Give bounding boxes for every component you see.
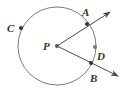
point-B: B: [89, 61, 97, 84]
label-A: A: [81, 6, 89, 18]
label-C: C: [7, 22, 15, 34]
label-B: B: [89, 72, 97, 84]
point-A: A: [81, 6, 89, 26]
point-P: [55, 44, 59, 48]
label-P: P: [43, 40, 50, 52]
ray-PB: [57, 46, 118, 76]
label-D: D: [96, 50, 105, 62]
geometry-diagram: P A C D B: [0, 0, 120, 90]
